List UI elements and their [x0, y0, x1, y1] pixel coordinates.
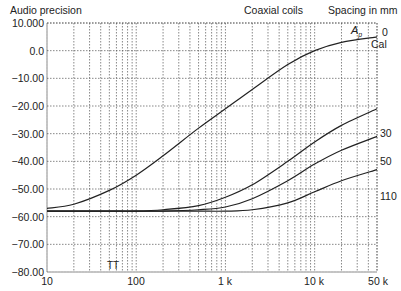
ap-annotation: Ap: [351, 25, 362, 38]
curve-110: [47, 170, 377, 212]
curve-50: [47, 136, 377, 211]
curve-label-50: 50: [380, 156, 392, 167]
grid-lines: [47, 23, 377, 272]
curve-0: [47, 37, 377, 209]
data-curves: [47, 37, 377, 211]
curve-label-30: 30: [380, 128, 392, 139]
plot-frame: [47, 23, 377, 272]
curve-label-0: 0: [382, 27, 388, 38]
curve-label-110: 110: [380, 191, 397, 202]
tt-annotation: TT: [107, 261, 119, 271]
cal-label: Cal: [371, 39, 387, 50]
plot-area: [0, 0, 401, 291]
